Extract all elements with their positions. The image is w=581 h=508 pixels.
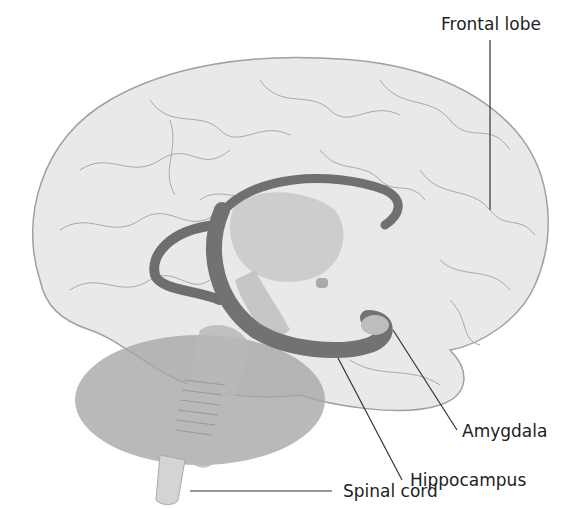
amygdala-shape bbox=[361, 315, 389, 335]
spinal-cord-label: Spinal cord bbox=[343, 481, 438, 501]
pituitary bbox=[316, 278, 328, 288]
frontal-lobe-label: Frontal lobe bbox=[441, 14, 541, 34]
spinal-cord-shape bbox=[156, 455, 185, 505]
amygdala-label: Amygdala bbox=[462, 421, 547, 441]
